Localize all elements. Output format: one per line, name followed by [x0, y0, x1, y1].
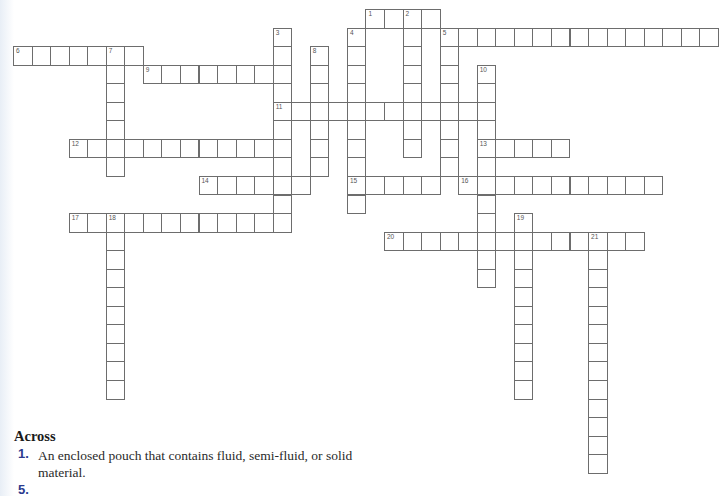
grid-cell[interactable]	[421, 232, 441, 252]
grid-cell[interactable]	[440, 120, 460, 140]
grid-cell[interactable]	[106, 157, 126, 177]
grid-cell[interactable]	[403, 120, 423, 140]
grid-cell[interactable]	[124, 139, 144, 159]
grid-cell[interactable]	[273, 65, 293, 85]
grid-cell[interactable]	[273, 157, 293, 177]
grid-cell[interactable]	[106, 361, 126, 381]
grid-cell[interactable]	[273, 139, 293, 159]
grid-cell[interactable]	[532, 176, 552, 196]
grid-cell[interactable]	[384, 102, 404, 122]
grid-cell[interactable]	[106, 306, 126, 326]
grid-cell[interactable]	[458, 232, 478, 252]
grid-cell[interactable]	[347, 157, 367, 177]
grid-cell[interactable]	[588, 324, 608, 344]
grid-cell[interactable]	[403, 83, 423, 103]
grid-cell[interactable]	[384, 9, 404, 29]
grid-cell[interactable]: 20	[384, 232, 404, 252]
grid-cell[interactable]	[514, 176, 534, 196]
grid-cell[interactable]: 19	[514, 213, 534, 233]
grid-cell[interactable]	[347, 102, 367, 122]
grid-cell[interactable]: 1	[365, 9, 385, 29]
grid-cell[interactable]	[514, 361, 534, 381]
grid-cell[interactable]: 15	[347, 176, 367, 196]
grid-cell[interactable]	[644, 176, 664, 196]
grid-cell[interactable]: 8	[310, 46, 330, 66]
grid-cell[interactable]	[514, 28, 534, 48]
grid-cell[interactable]	[477, 250, 497, 270]
grid-cell[interactable]	[87, 139, 107, 159]
grid-cell[interactable]	[458, 28, 478, 48]
grid-cell[interactable]	[403, 28, 423, 48]
grid-cell[interactable]	[588, 28, 608, 48]
grid-cell[interactable]	[699, 28, 719, 48]
grid-cell[interactable]	[254, 65, 274, 85]
grid-cell[interactable]	[50, 46, 70, 66]
grid-cell[interactable]	[236, 139, 256, 159]
grid-cell[interactable]	[570, 28, 590, 48]
grid-cell[interactable]	[106, 250, 126, 270]
grid-cell[interactable]	[551, 232, 571, 252]
grid-cell[interactable]	[310, 102, 330, 122]
grid-cell[interactable]	[347, 65, 367, 85]
grid-cell[interactable]	[681, 28, 701, 48]
grid-cell[interactable]	[217, 65, 237, 85]
grid-cell[interactable]	[384, 176, 404, 196]
grid-cell[interactable]	[143, 139, 163, 159]
grid-cell[interactable]	[180, 139, 200, 159]
grid-cell[interactable]	[310, 139, 330, 159]
grid-cell[interactable]	[588, 176, 608, 196]
grid-cell[interactable]	[403, 46, 423, 66]
grid-cell[interactable]: 7	[106, 46, 126, 66]
grid-cell[interactable]: 4	[347, 28, 367, 48]
grid-cell[interactable]	[347, 139, 367, 159]
grid-cell[interactable]	[588, 306, 608, 326]
grid-cell[interactable]	[291, 102, 311, 122]
grid-cell[interactable]	[477, 102, 497, 122]
grid-cell[interactable]	[236, 213, 256, 233]
grid-cell[interactable]	[570, 176, 590, 196]
grid-cell[interactable]	[273, 46, 293, 66]
grid-cell[interactable]	[365, 176, 385, 196]
grid-cell[interactable]	[551, 139, 571, 159]
grid-cell[interactable]: 9	[143, 65, 163, 85]
grid-cell[interactable]	[532, 232, 552, 252]
grid-cell[interactable]	[254, 139, 274, 159]
grid-cell[interactable]	[625, 176, 645, 196]
grid-cell[interactable]: 13	[477, 139, 497, 159]
grid-cell[interactable]	[106, 324, 126, 344]
grid-cell[interactable]	[254, 213, 274, 233]
grid-cell[interactable]	[607, 232, 627, 252]
grid-cell[interactable]	[106, 232, 126, 252]
grid-cell[interactable]	[106, 269, 126, 289]
grid-cell[interactable]	[588, 361, 608, 381]
grid-cell[interactable]	[106, 343, 126, 363]
grid-cell[interactable]	[273, 195, 293, 215]
grid-cell[interactable]	[477, 176, 497, 196]
grid-cell[interactable]	[106, 83, 126, 103]
grid-cell[interactable]	[477, 157, 497, 177]
grid-cell[interactable]	[106, 139, 126, 159]
grid-cell[interactable]	[403, 232, 423, 252]
grid-cell[interactable]	[328, 102, 348, 122]
grid-cell[interactable]	[32, 46, 52, 66]
grid-cell[interactable]	[180, 65, 200, 85]
grid-cell[interactable]	[199, 213, 219, 233]
grid-cell[interactable]	[588, 436, 608, 456]
grid-cell[interactable]	[421, 176, 441, 196]
grid-cell[interactable]	[514, 269, 534, 289]
grid-cell[interactable]: 6	[13, 46, 33, 66]
grid-cell[interactable]	[477, 195, 497, 215]
grid-cell[interactable]	[421, 9, 441, 29]
grid-cell[interactable]	[551, 176, 571, 196]
grid-cell[interactable]	[440, 65, 460, 85]
grid-cell[interactable]	[532, 139, 552, 159]
grid-cell[interactable]	[310, 157, 330, 177]
grid-cell[interactable]	[588, 287, 608, 307]
grid-cell[interactable]	[588, 454, 608, 474]
grid-cell[interactable]	[514, 139, 534, 159]
grid-cell[interactable]	[477, 120, 497, 140]
grid-cell[interactable]	[199, 139, 219, 159]
grid-cell[interactable]	[514, 250, 534, 270]
grid-cell[interactable]	[588, 417, 608, 437]
grid-cell[interactable]	[143, 213, 163, 233]
